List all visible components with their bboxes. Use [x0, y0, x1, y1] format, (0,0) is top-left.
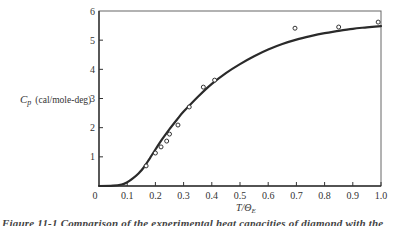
- data-point-marker: [293, 26, 297, 30]
- y-axis-units: (cal/mole-deg): [35, 95, 91, 106]
- x-tick-label: 1.0: [375, 190, 388, 201]
- x-tick-label: 0.2: [149, 190, 162, 201]
- x-tick-label: 0.9: [347, 190, 360, 201]
- data-point-marker: [337, 25, 341, 29]
- x-axis-symbol-sub: E: [251, 207, 257, 215]
- x-tick-label: 0.4: [206, 190, 219, 201]
- data-point-marker: [213, 78, 217, 82]
- data-point-marker: [187, 105, 191, 109]
- x-axis-title: T/ΘE: [236, 202, 257, 215]
- y-tick-label: 1: [90, 151, 95, 162]
- data-point-marker: [159, 145, 163, 149]
- data-point-marker: [176, 123, 180, 127]
- theory-curve-path: [99, 26, 381, 186]
- y-axis-symbol-sub: p: [26, 98, 31, 107]
- plot-frame: [99, 11, 381, 186]
- x-tick-label: 0: [93, 190, 98, 201]
- plot-area-border: [99, 11, 381, 186]
- experimental-points: [144, 20, 380, 168]
- x-axis-ticks: 00.10.20.30.40.50.60.70.80.91.0: [93, 182, 388, 201]
- x-tick-label: 0.6: [262, 190, 275, 201]
- x-tick-label: 0.5: [234, 190, 247, 201]
- heat-capacity-chart: 00.10.20.30.40.50.60.70.80.91.0 123456 C…: [0, 0, 408, 226]
- x-tick-label: 0.8: [318, 190, 331, 201]
- y-axis-ticks: 123456: [90, 6, 103, 163]
- x-tick-label: 0.1: [121, 190, 134, 201]
- data-point-marker: [153, 151, 157, 155]
- y-tick-label: 2: [90, 122, 95, 133]
- y-tick-label: 5: [90, 35, 95, 46]
- x-tick-label: 0.7: [290, 190, 303, 201]
- x-axis-symbol: T/Θ: [236, 202, 252, 213]
- theory-curve: [99, 26, 381, 186]
- data-point-marker: [376, 20, 380, 24]
- y-tick-label: 4: [90, 64, 95, 75]
- y-tick-label: 6: [90, 6, 95, 17]
- data-point-marker: [168, 132, 172, 136]
- y-axis-title: Cp(cal/mole-deg): [20, 93, 91, 107]
- figure-caption: Figure 11-1 Comparison of the experiment…: [2, 217, 408, 226]
- data-point-marker: [201, 85, 205, 89]
- x-tick-label: 0.3: [177, 190, 190, 201]
- data-point-marker: [165, 139, 169, 143]
- data-point-marker: [144, 164, 148, 168]
